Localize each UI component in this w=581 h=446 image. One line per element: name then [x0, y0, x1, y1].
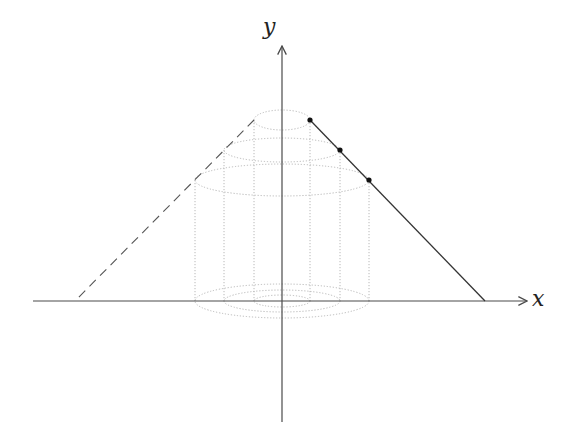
point-1	[307, 117, 312, 122]
generating-lines	[75, 120, 485, 301]
shell-method-diagram	[0, 0, 581, 446]
point-2	[337, 147, 342, 152]
dashed-reflected-line	[75, 120, 254, 301]
point-3	[366, 177, 371, 182]
axes	[33, 46, 527, 422]
y-axis-label: y	[263, 16, 275, 38]
x-axis-label: x	[532, 288, 544, 310]
solid-generating-line	[310, 120, 485, 301]
